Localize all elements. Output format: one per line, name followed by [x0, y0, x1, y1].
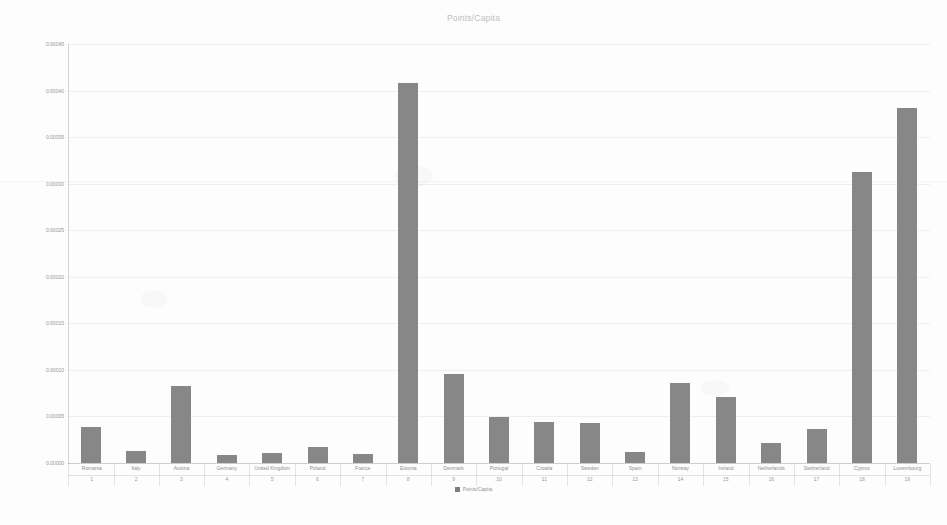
y-axis-tick-label: 0.00005	[20, 413, 64, 419]
bar[interactable]	[716, 397, 736, 463]
bar-slot	[476, 44, 521, 463]
bar-slot	[340, 44, 385, 463]
category-rank: 6	[295, 476, 340, 482]
bar-slot	[68, 44, 113, 463]
bar[interactable]	[807, 429, 827, 463]
bar[interactable]	[81, 427, 101, 463]
y-axis-tick-label: 0.00010	[20, 367, 64, 373]
bar[interactable]	[353, 454, 373, 463]
category-rank: 9	[431, 476, 476, 482]
bar-slot	[249, 44, 294, 463]
y-axis-tick-label: 0.00015	[20, 320, 64, 326]
bar-slot	[612, 44, 657, 463]
category-label: Romania	[69, 465, 114, 471]
bar[interactable]	[444, 374, 464, 463]
bar-slot	[749, 44, 794, 463]
category-rank: 13	[612, 476, 657, 482]
bar-slot	[703, 44, 748, 463]
bar-slot	[295, 44, 340, 463]
category-label: Portugal	[476, 465, 521, 471]
y-axis-tick-label: 0.00020	[20, 274, 64, 280]
category-rank: 10	[476, 476, 521, 482]
y-axis-tick-label: 0.00000	[20, 460, 64, 466]
y-axis-tick-label: 0.00030	[20, 181, 64, 187]
legend-swatch-icon	[455, 487, 460, 492]
category-axis-divider	[68, 475, 930, 476]
category-label: Poland	[295, 465, 340, 471]
bar[interactable]	[126, 451, 146, 463]
bar-slot	[113, 44, 158, 463]
bar-slot	[204, 44, 249, 463]
category-label: Germany	[204, 465, 249, 471]
category-rank: 14	[658, 476, 703, 482]
bar-slot	[658, 44, 703, 463]
category-rank: 4	[204, 476, 249, 482]
legend-label: Points/Capita	[463, 486, 493, 492]
category-label: Austria	[159, 465, 204, 471]
category-label: France	[340, 465, 385, 471]
bar[interactable]	[534, 422, 554, 463]
bar-slot	[522, 44, 567, 463]
category-label: Switzerland	[794, 465, 839, 471]
category-label: Cyprus	[839, 465, 884, 471]
y-axis-tick-label: 0.00040	[20, 88, 64, 94]
y-axis-tick-label: 0.00045	[20, 41, 64, 47]
bar-slot	[431, 44, 476, 463]
category-label: Netherlands	[749, 465, 794, 471]
category-label: Norway	[658, 465, 703, 471]
category-rank: 19	[885, 476, 930, 482]
chart-title: Points/Capita	[0, 13, 947, 23]
bar[interactable]	[398, 83, 418, 463]
category-label: Luxembourg	[885, 465, 930, 471]
category-rank: 2	[113, 476, 158, 482]
category-rank: 17	[794, 476, 839, 482]
bar[interactable]	[897, 108, 917, 463]
bars-layer	[68, 44, 930, 463]
category-rank: 5	[249, 476, 294, 482]
bar-slot	[567, 44, 612, 463]
bar[interactable]	[670, 383, 690, 463]
bar[interactable]	[262, 453, 282, 463]
y-axis-tick-label: 0.00025	[20, 227, 64, 233]
y-axis-tick-label: 0.00035	[20, 134, 64, 140]
chart-legend: Points/Capita	[0, 486, 947, 492]
category-rank: 15	[703, 476, 748, 482]
bar-slot	[839, 44, 884, 463]
category-label: Denmark	[431, 465, 476, 471]
category-rank: 11	[522, 476, 567, 482]
category-rank: 1	[69, 476, 114, 482]
bar[interactable]	[625, 452, 645, 463]
bar-slot	[386, 44, 431, 463]
category-label: Ireland	[703, 465, 748, 471]
bar[interactable]	[580, 423, 600, 463]
bar[interactable]	[489, 417, 509, 463]
category-rank: 16	[749, 476, 794, 482]
category-rank: 8	[386, 476, 431, 482]
chart-page: Points/Capita 0.000450.000400.000350.000…	[0, 0, 947, 525]
bar[interactable]	[852, 172, 872, 463]
category-label: Sweden	[567, 465, 612, 471]
category-rank: 18	[839, 476, 884, 482]
category-rank: 7	[340, 476, 385, 482]
category-label: Italy	[113, 465, 158, 471]
category-label: Spain	[612, 465, 657, 471]
category-label: Croatia	[522, 465, 567, 471]
category-label: Estonia	[386, 465, 431, 471]
bar-slot	[159, 44, 204, 463]
category-rank: 12	[567, 476, 612, 482]
bar-slot	[794, 44, 839, 463]
bar[interactable]	[171, 386, 191, 463]
category-label: United Kingdom	[249, 465, 294, 471]
bar[interactable]	[761, 443, 781, 463]
bar-slot	[885, 44, 930, 463]
category-rank: 3	[159, 476, 204, 482]
bar[interactable]	[217, 455, 237, 463]
bar[interactable]	[308, 447, 328, 463]
